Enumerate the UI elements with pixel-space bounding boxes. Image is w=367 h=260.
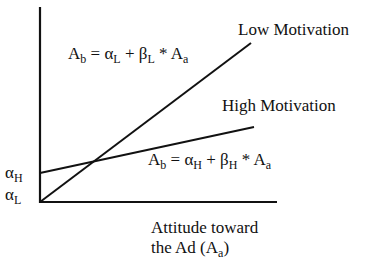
high-motivation-equation: Ab = αH + βH * Aa bbox=[148, 151, 271, 168]
eq-lhs: A bbox=[68, 44, 80, 63]
x-axis-label-prefix: the Ad (A bbox=[151, 238, 218, 257]
alpha-sub: H bbox=[14, 171, 23, 185]
low-motivation-equation: Ab = αL + βL * Aa bbox=[68, 45, 188, 62]
eq-x: A bbox=[171, 44, 183, 63]
alpha-symbol: α bbox=[5, 185, 14, 204]
eq-equals: = bbox=[166, 150, 184, 169]
eq-beta: β bbox=[220, 150, 229, 169]
alpha-symbol: α bbox=[5, 163, 14, 182]
eq-lhs-sub: b bbox=[160, 158, 166, 172]
eq-lhs: A bbox=[148, 150, 160, 169]
low-motivation-line bbox=[40, 43, 251, 202]
eq-times: * bbox=[155, 44, 171, 63]
eq-x-sub: a bbox=[183, 52, 188, 66]
x-axis-label-sub: a bbox=[218, 246, 223, 260]
eq-beta-sub: L bbox=[147, 52, 154, 66]
low-motivation-label: Low Motivation bbox=[238, 21, 349, 38]
eq-x: A bbox=[253, 150, 265, 169]
eq-x-sub: a bbox=[266, 158, 271, 172]
eq-alpha-sub: H bbox=[193, 158, 202, 172]
eq-times: * bbox=[237, 150, 253, 169]
x-axis-label-line2: the Ad (Aa) bbox=[151, 238, 258, 259]
eq-alpha: α bbox=[184, 150, 193, 169]
eq-plus: + bbox=[202, 150, 220, 169]
alpha-sub: L bbox=[14, 193, 21, 207]
alpha-h-tick-label: αH bbox=[5, 164, 23, 181]
x-axis-label-suffix: ) bbox=[223, 238, 229, 257]
eq-alpha-sub: L bbox=[113, 52, 120, 66]
high-motivation-label: High Motivation bbox=[222, 97, 336, 114]
eq-plus: + bbox=[121, 44, 139, 63]
eq-lhs-sub: b bbox=[80, 52, 86, 66]
eq-beta-sub: H bbox=[229, 158, 238, 172]
alpha-l-tick-label: αL bbox=[5, 186, 21, 203]
x-axis-label-line1: Attitude toward bbox=[151, 218, 258, 238]
eq-alpha: α bbox=[104, 44, 113, 63]
x-axis-label: Attitude toward the Ad (Aa) bbox=[151, 218, 258, 259]
eq-equals: = bbox=[86, 44, 104, 63]
